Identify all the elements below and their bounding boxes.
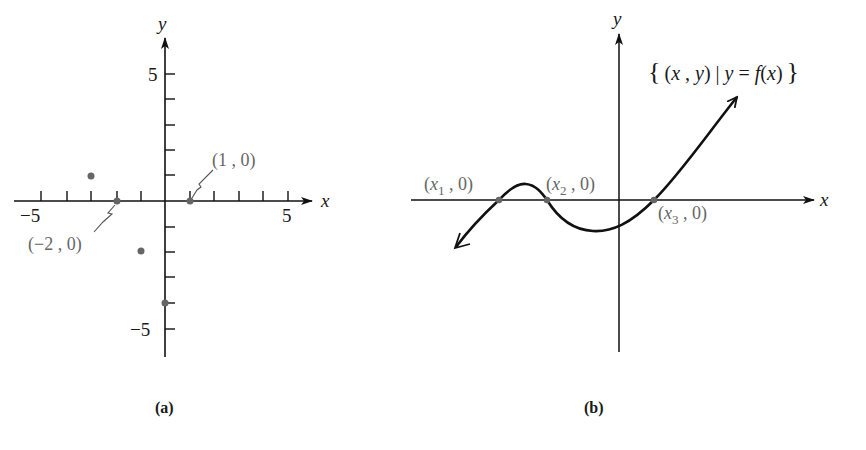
function-curve — [456, 97, 737, 247]
root-label-1: (x1 , 0) — [424, 174, 473, 198]
root-point-1 — [496, 197, 503, 204]
x-axis-label-b: x — [819, 189, 829, 210]
x-tick-label-neg5: −5 — [20, 205, 40, 226]
point-1-0 — [187, 198, 194, 205]
point-neg1-neg2 — [138, 248, 145, 255]
leader-line-1-0 — [192, 170, 213, 198]
caption-b: (b) — [584, 399, 604, 417]
y-tick-label-5: 5 — [148, 64, 158, 85]
graph-set-label: {(x , y) | y = f(x)} — [648, 57, 799, 86]
leader-line-neg2-0 — [94, 205, 115, 232]
y-axis-label-b: y — [611, 8, 622, 29]
point-label-1-0: (1 , 0) — [212, 150, 256, 171]
figure-canvas: −5 5 5 −5 x y (1 , 0) (−2 , 0) (a) x y — [0, 0, 866, 450]
caption-a: (a) — [155, 399, 174, 417]
y-axis-label: y — [156, 13, 167, 34]
point-label-neg2-0: (−2 , 0) — [28, 234, 82, 255]
panel-b: x y (x1 , 0) (x2 , 0) (x3 , 0) {(x , y) … — [411, 8, 829, 417]
root-point-2 — [544, 197, 551, 204]
root-point-3 — [651, 197, 658, 204]
panel-a: −5 5 5 −5 x y (1 , 0) (−2 , 0) (a) — [14, 13, 330, 417]
point-neg2-0 — [114, 198, 121, 205]
point-0-neg4 — [162, 300, 169, 307]
root-label-2: (x2 , 0) — [546, 174, 595, 198]
point-neg3-1 — [88, 173, 95, 180]
root-label-3: (x3 , 0) — [658, 203, 707, 227]
x-tick-label-5: 5 — [282, 205, 292, 226]
y-tick-label-neg5: −5 — [130, 319, 150, 340]
x-axis-label: x — [320, 190, 330, 211]
